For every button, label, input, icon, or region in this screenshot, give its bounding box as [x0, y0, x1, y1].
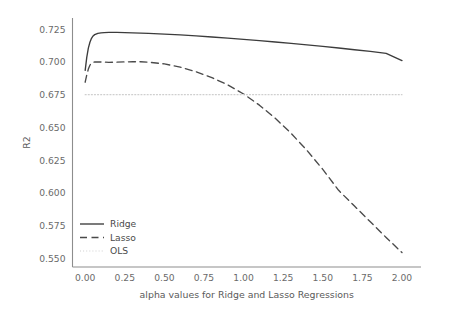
- x-tick-label: 1.00: [233, 272, 254, 283]
- x-tick-label: 0.00: [75, 272, 96, 283]
- y-tick-label: 0.625: [39, 155, 65, 166]
- x-tick-label: 1.25: [273, 272, 294, 283]
- x-tick-label: 0.75: [194, 272, 215, 283]
- x-tick-label: 1.75: [352, 272, 373, 283]
- x-axis-title: alpha values for Ridge and Lasso Regress…: [140, 289, 354, 300]
- x-axis-tick-labels: 0.000.250.500.751.001.251.501.752.00: [75, 272, 412, 283]
- y-tick-label: 0.600: [39, 187, 65, 198]
- y-axis-title: R2: [21, 136, 32, 149]
- y-tick-label: 0.700: [39, 56, 65, 67]
- x-tick-label: 1.50: [313, 272, 334, 283]
- y-tick-label: 0.650: [39, 122, 65, 133]
- chart-figure: 0.5500.5750.6000.6250.6500.6750.7000.725…: [0, 0, 460, 314]
- x-tick-label: 2.00: [392, 272, 413, 283]
- plot-canvas: 0.5500.5750.6000.6250.6500.6750.7000.725…: [0, 0, 460, 314]
- y-tick-label: 0.725: [39, 24, 65, 35]
- x-tick-label: 0.50: [154, 272, 175, 283]
- x-tick-label: 0.25: [115, 272, 136, 283]
- y-tick-label: 0.550: [39, 253, 65, 264]
- y-tick-label: 0.675: [39, 89, 65, 100]
- legend-label-lasso: Lasso: [110, 232, 136, 243]
- y-tick-label: 0.575: [39, 220, 65, 231]
- legend-label-ridge: Ridge: [110, 218, 137, 229]
- legend-label-ols: OLS: [110, 245, 128, 256]
